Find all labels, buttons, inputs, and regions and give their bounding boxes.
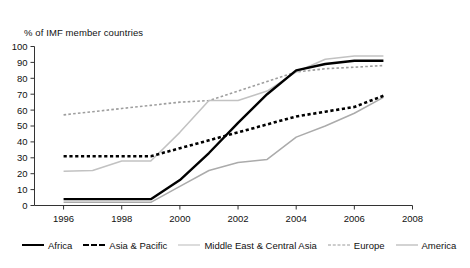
legend-label-europe: Europe xyxy=(354,240,385,251)
legend-item-mideast[interactable]: Middle East & Central Asia xyxy=(178,240,316,251)
y-tick-label: 0 xyxy=(22,200,27,211)
legend-item-america[interactable]: America xyxy=(396,240,457,251)
y-tick-label: 60 xyxy=(17,105,28,116)
plot-area: 0102030405060708090100 19961998200020022… xyxy=(0,0,470,232)
data-series-group xyxy=(64,56,384,202)
x-tick-label: 1998 xyxy=(111,213,132,224)
legend-label-asia: Asia & Pacific xyxy=(109,240,167,251)
series-line-europe xyxy=(64,66,384,115)
y-tick-label: 40 xyxy=(17,136,28,147)
x-tick-label: 2004 xyxy=(286,213,307,224)
legend-label-africa: Africa xyxy=(48,240,72,251)
y-tick-label: 90 xyxy=(17,57,28,68)
series-line-middle-east-central-asia xyxy=(64,56,384,171)
series-line-asia-pacific xyxy=(64,96,384,156)
y-tick-label: 70 xyxy=(17,89,28,100)
legend-label-mideast: Middle East & Central Asia xyxy=(204,240,316,251)
series-line-america xyxy=(64,97,384,202)
legend-label-america: America xyxy=(422,240,457,251)
x-axis: 1996199820002002200420062008 xyxy=(35,206,424,224)
legend-item-asia[interactable]: Asia & Pacific xyxy=(83,240,167,251)
y-tick-label: 50 xyxy=(17,120,28,131)
legend-swatch-europe-icon xyxy=(328,240,350,250)
legend-swatch-mideast-icon xyxy=(178,240,200,250)
x-tick-label: 2006 xyxy=(344,213,365,224)
y-axis: 0102030405060708090100 xyxy=(12,41,35,211)
legend-swatch-africa-icon xyxy=(22,240,44,250)
y-tick-label: 20 xyxy=(17,168,28,179)
y-tick-label: 30 xyxy=(17,152,28,163)
chart-svg: 0102030405060708090100 19961998200020022… xyxy=(0,0,470,232)
x-tick-label: 2002 xyxy=(227,213,248,224)
y-tick-label: 80 xyxy=(17,73,28,84)
legend-item-africa[interactable]: Africa xyxy=(22,240,72,251)
legend-item-europe[interactable]: Europe xyxy=(328,240,385,251)
y-tick-label: 10 xyxy=(17,184,28,195)
x-tick-label: 2008 xyxy=(402,213,423,224)
series-line-africa xyxy=(64,61,384,199)
x-tick-label: 1996 xyxy=(53,213,74,224)
legend-swatch-america-icon xyxy=(396,240,418,250)
x-tick-label: 2000 xyxy=(169,213,190,224)
chart-legend: AfricaAsia & PacificMiddle East & Centra… xyxy=(22,236,452,254)
y-tick-label: 100 xyxy=(12,41,28,52)
legend-swatch-asia-icon xyxy=(83,240,105,250)
chart-figure: % of IMF member countries 01020304050607… xyxy=(0,0,470,268)
